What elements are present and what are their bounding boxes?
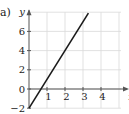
line-chart: −202461234yx	[0, 0, 129, 114]
y-tick-label: 6	[19, 26, 25, 37]
x-axis-label: x	[128, 91, 129, 102]
y-tick-label: 0	[19, 84, 25, 95]
x-tick-label: 3	[81, 91, 87, 102]
x-tick-label: 2	[63, 91, 69, 102]
y-tick-label: 4	[19, 45, 25, 56]
y-tick-label: 2	[19, 64, 25, 75]
y-axis-label: y	[18, 6, 25, 17]
data-line	[29, 13, 88, 108]
x-tick-label: 4	[99, 91, 105, 102]
y-tick-label: −2	[10, 103, 25, 114]
x-tick-label: 1	[45, 91, 51, 102]
